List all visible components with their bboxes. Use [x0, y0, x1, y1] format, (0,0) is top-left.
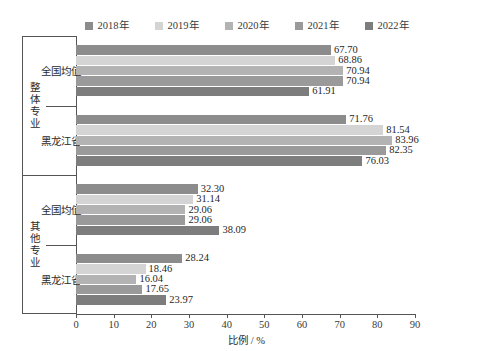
bar-其他专业-黑龙江省-2018年[interactable]	[76, 254, 182, 263]
x-tick	[151, 314, 152, 318]
x-tick-label: 20	[146, 319, 157, 330]
x-tick	[302, 314, 303, 318]
bar-value-label: 29.06	[188, 215, 212, 226]
bar-row: 81.54	[76, 125, 410, 134]
legend-swatch-icon	[365, 22, 373, 30]
bar-其他专业-全国均值-2022年[interactable]	[76, 226, 219, 235]
bar-row: 82.35	[76, 146, 413, 155]
y-axis-superlabel-text: 整体专业	[27, 82, 42, 130]
bar-row: 28.24	[76, 254, 209, 263]
legend-label: 2018年	[98, 21, 129, 32]
bar-其他专业-全国均值-2020年[interactable]	[76, 205, 185, 214]
legend-item-2018年[interactable]: 2018年	[85, 21, 129, 32]
bar-整体专业-黑龙江省-2020年[interactable]	[76, 136, 392, 145]
bar-整体专业-全国均值-2022年[interactable]	[76, 87, 309, 96]
x-tick-label: 40	[221, 319, 232, 330]
x-tick	[415, 314, 416, 318]
y-axis-sublabel-2: 全国均值	[46, 175, 76, 245]
bar-row: 61.91	[76, 87, 336, 96]
bar-其他专业-黑龙江省-2019年[interactable]	[76, 264, 146, 273]
y-axis-sublabel-0: 全国均值	[46, 36, 76, 106]
bar-row: 68.86	[76, 56, 362, 65]
x-tick-label: 0	[73, 319, 78, 330]
legend-label: 2020年	[238, 21, 269, 32]
legend-item-2020年[interactable]: 2020年	[225, 21, 269, 32]
bar-value-label: 28.24	[185, 253, 209, 264]
x-tick	[340, 314, 341, 318]
x-tick	[227, 314, 228, 318]
bar-row: 31.14	[76, 195, 220, 204]
legend-item-2021年[interactable]: 2021年	[295, 21, 339, 32]
bar-其他专业-黑龙江省-2021年[interactable]	[76, 285, 142, 294]
legend-item-2019年[interactable]: 2019年	[155, 21, 199, 32]
x-axis-title: 比例 / %	[0, 332, 493, 347]
bar-其他专业-全国均值-2021年[interactable]	[76, 215, 185, 224]
bar-chart: 2018年2019年2020年2021年2022年 全国均值黑龙江省全国均值黑龙…	[0, 0, 493, 351]
legend-swatch-icon	[225, 22, 233, 30]
legend-label: 2022年	[378, 21, 409, 32]
bar-row: 67.70	[76, 45, 358, 54]
x-tick-label: 30	[184, 319, 195, 330]
legend-swatch-icon	[155, 22, 163, 30]
bar-整体专业-黑龙江省-2019年[interactable]	[76, 125, 383, 134]
y-axis-superlabel-text: 其他专业	[27, 221, 42, 269]
x-tick-label: 10	[108, 319, 119, 330]
chart-legend: 2018年2019年2020年2021年2022年	[0, 19, 493, 33]
x-tick	[189, 314, 190, 318]
y-axis-superlabel-0: 整体专业	[22, 36, 46, 175]
bar-其他专业-黑龙江省-2022年[interactable]	[76, 295, 166, 304]
bar-row: 38.09	[76, 226, 246, 235]
bar-value-label: 23.97	[169, 295, 193, 306]
x-tick	[114, 314, 115, 318]
legend-label: 2019年	[168, 21, 199, 32]
x-tick-label: 90	[410, 319, 421, 330]
legend-item-2022年[interactable]: 2022年	[365, 21, 409, 32]
bar-value-label: 61.91	[312, 86, 336, 97]
x-tick-label: 60	[297, 319, 308, 330]
bar-整体专业-黑龙江省-2021年[interactable]	[76, 146, 386, 155]
bar-整体专业-黑龙江省-2018年[interactable]	[76, 115, 346, 124]
bar-整体专业-全国均值-2018年[interactable]	[76, 45, 331, 54]
bar-整体专业-全国均值-2020年[interactable]	[76, 66, 343, 75]
bar-value-label: 17.65	[145, 284, 169, 295]
x-tick	[377, 314, 378, 318]
x-tick	[264, 314, 265, 318]
y-axis-sub-divider	[46, 106, 76, 107]
bar-其他专业-全国均值-2019年[interactable]	[76, 195, 193, 204]
bar-row: 76.03	[76, 156, 389, 165]
bar-整体专业-黑龙江省-2022年[interactable]	[76, 156, 362, 165]
x-tick	[76, 314, 77, 318]
legend-swatch-icon	[295, 22, 303, 30]
y-axis-superlabel-1: 其他专业	[22, 175, 46, 314]
bar-其他专业-黑龙江省-2020年[interactable]	[76, 275, 136, 284]
bar-value-label: 38.09	[222, 225, 246, 236]
bar-value-label: 82.35	[389, 145, 413, 156]
bar-value-label: 76.03	[365, 156, 389, 167]
y-axis-sublabel-3: 黑龙江省	[46, 245, 76, 315]
bar-整体专业-全国均值-2019年[interactable]	[76, 56, 335, 65]
bar-row: 17.65	[76, 285, 169, 294]
y-axis-sublabel-1: 黑龙江省	[46, 106, 76, 176]
y-axis-super-divider	[22, 175, 76, 176]
bar-row: 23.97	[76, 295, 193, 304]
bar-row: 70.94	[76, 66, 370, 75]
x-tick-label: 50	[259, 319, 270, 330]
bar-row: 83.96	[76, 136, 419, 145]
bar-row: 71.76	[76, 115, 373, 124]
bar-row: 29.06	[76, 215, 212, 224]
y-axis-sub-divider	[46, 245, 76, 246]
bar-其他专业-全国均值-2018年[interactable]	[76, 184, 198, 193]
bar-value-label: 70.94	[346, 76, 370, 87]
bar-整体专业-全国均值-2021年[interactable]	[76, 76, 343, 85]
bar-value-label: 71.76	[349, 114, 373, 125]
x-tick-label: 70	[334, 319, 345, 330]
legend-swatch-icon	[85, 22, 93, 30]
legend-label: 2021年	[308, 21, 339, 32]
x-axis-line	[76, 314, 415, 315]
x-tick-label: 80	[372, 319, 383, 330]
